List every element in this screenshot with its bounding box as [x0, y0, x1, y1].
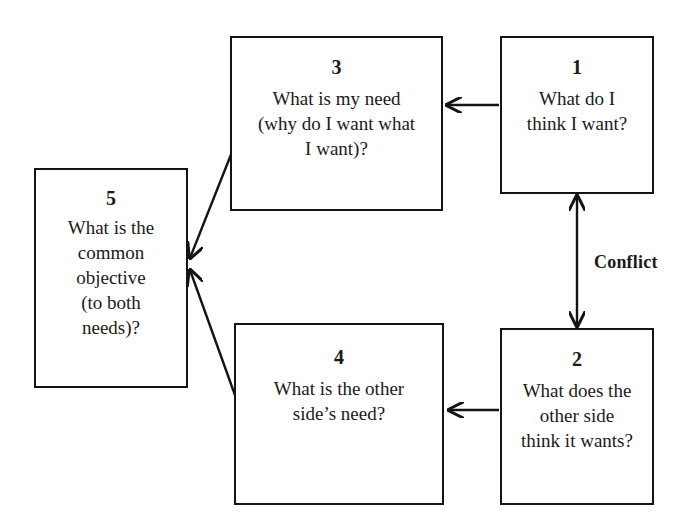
diagram-canvas: 1 What do Ithink I want? 2 What does the…: [0, 0, 697, 530]
arrow-node3-to-node5: [190, 152, 232, 258]
node-box-5: 5 What is thecommonobjective(to bothneed…: [34, 168, 188, 388]
node-box-1: 1 What do Ithink I want?: [500, 36, 654, 194]
node-5-number: 5: [106, 188, 116, 208]
node-4-text: What is the otherside’s need?: [268, 376, 410, 426]
node-box-4: 4 What is the otherside’s need?: [234, 323, 444, 505]
node-4-number: 4: [334, 347, 344, 367]
node-5-text: What is thecommonobjective(to bothneeds)…: [62, 215, 161, 340]
node-box-3: 3 What is my need(why do I want whatI wa…: [230, 36, 443, 211]
node-3-number: 3: [332, 57, 342, 77]
arrow-node4-to-node5: [190, 270, 236, 398]
node-box-2: 2 What does theother sidethink it wants?: [500, 328, 654, 505]
node-2-text: What does theother sidethink it wants?: [515, 378, 639, 453]
conflict-label: Conflict: [594, 252, 658, 273]
node-3-text: What is my need(why do I want whatI want…: [252, 86, 421, 161]
node-1-number: 1: [572, 57, 582, 77]
node-1-text: What do Ithink I want?: [521, 86, 633, 136]
node-2-number: 2: [572, 349, 582, 369]
